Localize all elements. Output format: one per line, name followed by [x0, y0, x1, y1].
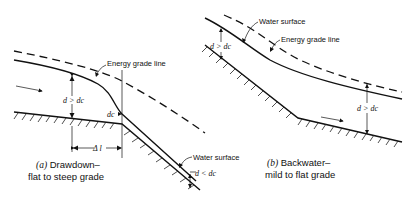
open-channel-flow-diagram: d > dc dc Δ l Energy grade line Water su… [0, 0, 418, 198]
energy-grade-line-label-a: Energy grade line [107, 59, 166, 68]
water-surface-label-b: Water surface [259, 17, 305, 26]
depth-upstream-label-b: d > dc [210, 42, 231, 51]
depth-downstream-label-b: d > dc [357, 104, 378, 113]
caption-b-line2: mild to flat grade [265, 169, 335, 180]
water-surface-leader-b [244, 22, 258, 42]
depth-downstream-label-a: d < dc [195, 169, 216, 178]
channel-bed-b [205, 45, 402, 142]
caption-a-line2: flat to steep grade [28, 171, 104, 182]
bed-hatching-b [202, 47, 398, 147]
water-surface-label-a: Water surface [193, 153, 239, 162]
caption-b-line1: (b) Backwater– [267, 157, 331, 169]
caption-a-line1: (a) Drawdown– [36, 159, 101, 171]
depth-upstream-label-a: d > dc [63, 96, 84, 105]
delta-l-label: Δ l [92, 144, 103, 153]
flow-arrow-a [16, 86, 42, 91]
water-surface-b [205, 18, 402, 99]
energy-grade-line-label-b: Energy grade line [281, 35, 340, 44]
critical-depth-label-a: dc [107, 110, 115, 119]
flow-arrow-b [321, 117, 343, 121]
panel-a-drawdown: d > dc dc Δ l Energy grade line Water su… [14, 51, 239, 190]
